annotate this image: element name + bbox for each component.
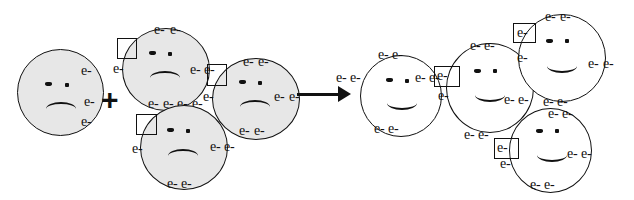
electron-label: e- [415, 71, 425, 85]
electron-label: e- [190, 63, 200, 77]
electron-label: e- [170, 23, 180, 37]
electron-label: e- [224, 140, 234, 154]
electron-label: e- [374, 122, 384, 136]
electron-label: e- [530, 178, 540, 192]
smile-mouth-icon [547, 59, 577, 73]
electron-label: e- [336, 71, 346, 85]
electron-label: e- [350, 71, 360, 85]
frown-mouth-icon [240, 100, 270, 114]
happy-face-1 [361, 56, 441, 136]
frown-mouth-icon [150, 71, 180, 85]
electron-label: e- [81, 115, 91, 129]
electron-label: e- [167, 177, 177, 191]
left-eye-icon [149, 51, 156, 55]
frown-mouth-icon [46, 102, 76, 116]
electron-label: e- [497, 141, 507, 155]
smile-mouth-icon [537, 148, 567, 162]
electron-label: e- [254, 124, 264, 138]
reaction-arrow-line [297, 93, 339, 96]
product-atom-1 [360, 55, 442, 137]
electron-label: e- [210, 140, 220, 154]
left-eye-icon [536, 129, 543, 133]
right-eye-icon [405, 79, 409, 83]
electron-label: e- [500, 157, 510, 171]
right-eye-icon [258, 81, 262, 85]
electron-label: e- [588, 57, 598, 71]
electron-label: e- [504, 93, 514, 107]
left-eye-icon [546, 39, 553, 43]
left-eye-icon [386, 78, 393, 82]
right-eye-icon [168, 52, 172, 56]
electron-label: e- [464, 128, 474, 142]
electron-label: e- [562, 107, 572, 121]
electron-label: e- [84, 95, 94, 109]
electron-label: e- [388, 122, 398, 136]
right-eye-icon [565, 39, 569, 43]
smile-mouth-icon [475, 88, 505, 102]
electron-label: e- [378, 48, 388, 62]
electron-label: e- [517, 51, 527, 65]
highlight-box-reactant-4 [136, 114, 157, 135]
electron-label: e- [470, 39, 480, 53]
electron-label: e- [203, 90, 213, 104]
right-eye-icon [493, 69, 497, 73]
electron-label: e- [545, 10, 555, 24]
frown-mouth-icon [168, 149, 198, 163]
highlight-box-reactant-2 [117, 38, 137, 59]
electron-label: e- [581, 147, 591, 161]
electron-label: e- [154, 23, 164, 37]
electron-label: e- [560, 10, 570, 24]
plus-operator: + [101, 85, 119, 115]
electron-label: e- [567, 147, 577, 161]
left-eye-icon [474, 69, 481, 73]
electron-label: e- [438, 89, 448, 103]
reaction-arrow-head [338, 86, 351, 102]
electron-label: e- [113, 62, 123, 76]
electron-label: e- [132, 142, 142, 156]
right-eye-icon [65, 83, 69, 87]
electron-label: e- [274, 90, 284, 104]
electron-label: e- [484, 39, 494, 53]
reaction-diagram: e- e- e- + e- e- e- e- e- e- e- e- e- e-… [0, 0, 634, 200]
electron-label: e- [517, 26, 527, 40]
left-eye-icon [167, 128, 174, 132]
smile-mouth-icon [387, 96, 417, 110]
left-eye-icon [239, 80, 246, 84]
electron-label: e- [239, 124, 249, 138]
electron-label: e- [437, 69, 447, 83]
electron-label: e- [603, 57, 613, 71]
right-eye-icon [186, 129, 190, 133]
electron-label: e- [548, 107, 558, 121]
electron-label: e- [258, 55, 268, 69]
highlight-box-reactant-3 [207, 64, 227, 86]
electron-label: e- [544, 178, 554, 192]
electron-label: e- [392, 48, 402, 62]
electron-label: e- [243, 55, 253, 69]
electron-label: e- [181, 177, 191, 191]
electron-label: e- [478, 128, 488, 142]
left-eye-icon [45, 82, 52, 86]
right-eye-icon [555, 129, 559, 133]
electron-label: e- [81, 64, 91, 78]
